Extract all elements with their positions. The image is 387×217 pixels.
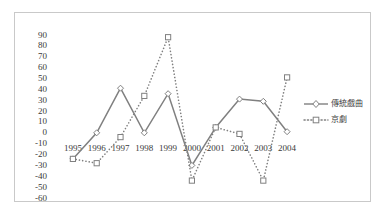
- data-point-s2-1996[interactable]: [94, 161, 99, 166]
- legend-key-square-dotted-icon: [303, 112, 329, 124]
- chart-frame: 9080706050403020100-10-20-30-40-50-60 19…: [14, 12, 371, 202]
- legend-item-series-2[interactable]: 京劇: [303, 111, 371, 125]
- series-line-2: [73, 37, 287, 180]
- data-point-s2-2000[interactable]: [189, 178, 194, 183]
- data-point-s2-1995[interactable]: [70, 156, 75, 161]
- legend-item-series-1[interactable]: 傳統戲曲: [303, 95, 371, 109]
- plot-area: 9080706050403020100-10-20-30-40-50-60 19…: [15, 13, 372, 203]
- data-point-s2-1999[interactable]: [166, 35, 171, 40]
- data-point-s2-1998[interactable]: [142, 93, 147, 98]
- data-point-s2-2003[interactable]: [261, 178, 266, 183]
- data-point-s2-1997[interactable]: [118, 135, 123, 140]
- chart-legend: 傳統戲曲 京劇: [303, 95, 371, 127]
- data-point-s2-2002[interactable]: [237, 131, 242, 136]
- data-point-s1-1997[interactable]: [118, 85, 124, 91]
- legend-key-diamond-solid-icon: [303, 96, 329, 108]
- data-point-s2-2001[interactable]: [213, 125, 218, 130]
- legend-label-series-1: 傳統戲曲: [329, 97, 363, 108]
- legend-label-series-2: 京劇: [329, 113, 347, 124]
- data-point-s2-2004[interactable]: [285, 75, 290, 80]
